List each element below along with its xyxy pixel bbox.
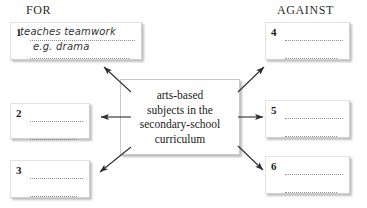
note-box-3[interactable]: 3 xyxy=(10,160,90,198)
note-rule-line xyxy=(285,107,343,119)
arrow-to-box-6 xyxy=(238,146,263,170)
note-lines-6 xyxy=(285,163,343,199)
for-against-mindmap-worksheet: FOR AGAINST 1 teaches teamwork e.g. dram… xyxy=(0,0,367,208)
note-box-4[interactable]: 4 xyxy=(265,22,350,60)
note-rule-line xyxy=(285,47,337,59)
note-number-6: 6 xyxy=(271,160,277,172)
column-heading-for: FOR xyxy=(26,3,51,18)
note-lines-4 xyxy=(285,29,343,65)
note-rule-line xyxy=(30,185,77,197)
topic-line-1: arts-based xyxy=(157,89,204,101)
note-number-5: 5 xyxy=(271,104,277,116)
note-rule-line xyxy=(285,163,343,175)
central-topic-text: arts-based subjects in the secondary-sch… xyxy=(137,88,223,146)
central-topic-box[interactable]: arts-based subjects in the secondary-sch… xyxy=(120,79,240,155)
note-rule-line xyxy=(285,181,337,193)
note-number-2: 2 xyxy=(16,107,22,119)
arrow-to-box-4 xyxy=(238,67,264,92)
note-lines-2 xyxy=(30,110,83,146)
note-number-4: 4 xyxy=(271,26,277,38)
column-heading-against: AGAINST xyxy=(277,3,334,18)
note-rule-line xyxy=(30,110,83,122)
handwritten-answer-line-2: e.g. drama xyxy=(33,41,90,52)
note-rule-line xyxy=(30,128,77,140)
note-box-5[interactable]: 5 xyxy=(265,100,350,138)
note-rule-line xyxy=(285,125,337,137)
note-lines-3 xyxy=(30,167,83,203)
topic-line-3: secondary-school xyxy=(140,118,220,130)
topic-line-4: curriculum xyxy=(155,133,205,145)
note-rule-line xyxy=(30,167,83,179)
note-rule-line xyxy=(285,29,343,41)
note-lines-5 xyxy=(285,107,343,143)
topic-line-2: subjects in the xyxy=(147,104,213,116)
handwritten-answer-line-1: teaches teamwork xyxy=(20,26,116,37)
note-number-3: 3 xyxy=(16,164,22,176)
note-box-6[interactable]: 6 xyxy=(265,156,350,194)
note-box-2[interactable]: 2 xyxy=(10,103,90,139)
